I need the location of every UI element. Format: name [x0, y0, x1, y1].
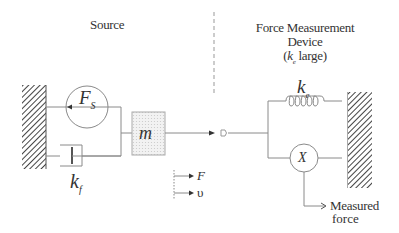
damper-label: kf	[70, 171, 82, 195]
device-heading-line1: Force Measurement	[240, 21, 370, 34]
source-heading: Source	[90, 18, 124, 31]
legend-velocity-label: υ	[197, 186, 203, 199]
device-heading-line3: (ke large)	[240, 49, 370, 66]
source-force-label: FS	[79, 88, 96, 111]
spring-label: ke	[297, 77, 309, 100]
left-wall-icon	[22, 85, 46, 169]
right-wall-icon	[348, 92, 372, 188]
measured-force-line2: force	[332, 212, 359, 225]
legend-force-arrow-icon	[189, 174, 194, 179]
transducer-label: X	[298, 151, 307, 165]
connector-icon	[221, 130, 227, 136]
source-arrow-icon	[67, 105, 72, 110]
output-arrow-icon	[209, 131, 215, 136]
mass-label: m	[139, 124, 152, 142]
legend-velocity-arrow-icon	[189, 191, 194, 196]
device-heading-line2: Device	[240, 35, 370, 48]
legend-force-label: F	[197, 169, 205, 182]
